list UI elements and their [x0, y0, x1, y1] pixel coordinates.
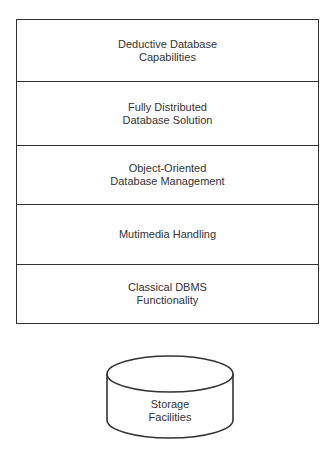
- layer-label: Deductive Database Capabilities: [118, 38, 217, 64]
- layer-object-oriented: Object-Oriented Database Management: [17, 145, 318, 204]
- layer-label: Mutimedia Handling: [119, 228, 216, 241]
- layer-deductive-database: Deductive Database Capabilities: [17, 20, 318, 81]
- layer-label: Fully Distributed Database Solution: [123, 101, 213, 127]
- layer-fully-distributed: Fully Distributed Database Solution: [17, 81, 318, 145]
- layer-stack: Deductive Database Capabilities Fully Di…: [16, 19, 319, 324]
- storage-facilities-label: Storage Facilities: [105, 398, 235, 424]
- layer-label: Object-Oriented Database Management: [110, 162, 224, 188]
- layer-label: Classical DBMS Functionality: [128, 281, 207, 307]
- layer-multimedia-handling: Mutimedia Handling: [17, 204, 318, 264]
- layer-classical-dbms: Classical DBMS Functionality: [17, 264, 318, 323]
